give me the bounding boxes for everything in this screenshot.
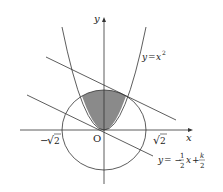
svg-text:2: 2 — [200, 162, 204, 170]
svg-text:+: + — [192, 155, 200, 165]
svg-text:y: y — [157, 155, 164, 165]
line-label: y = − 1 2 x + k 2 — [157, 152, 205, 170]
parabola-label: y = x 2 — [141, 49, 166, 62]
y-axis-label: y — [93, 13, 100, 24]
svg-text:=: = — [148, 52, 156, 62]
svg-text:x: x — [186, 155, 191, 165]
math-diagram: y x O − √ 2 √ 2 y = x 2 y = − 1 2 x + k … — [0, 0, 223, 192]
svg-text:1: 1 — [180, 152, 184, 160]
tick-neg-sqrt2: − √ 2 — [40, 134, 61, 147]
svg-text:2: 2 — [54, 136, 60, 146]
y-axis-arrow-icon — [102, 17, 106, 22]
svg-text:2: 2 — [162, 49, 166, 56]
tick-pos-sqrt2: √ 2 — [153, 134, 167, 147]
svg-text:2: 2 — [160, 136, 166, 146]
svg-text:k: k — [200, 152, 204, 160]
x-axis-label: x — [186, 132, 192, 143]
svg-text:x: x — [156, 52, 161, 62]
svg-text:2: 2 — [180, 162, 184, 170]
origin-label: O — [93, 133, 101, 144]
svg-text:y: y — [141, 52, 148, 62]
